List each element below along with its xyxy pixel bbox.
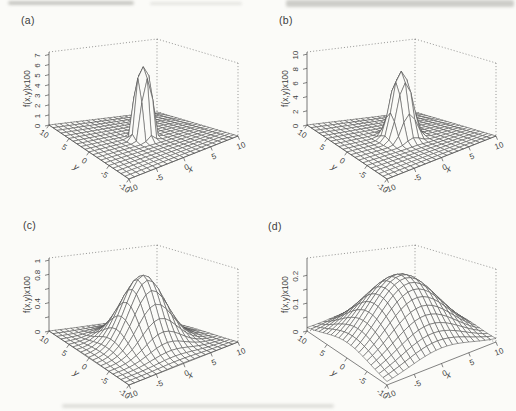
svg-text:10: 10	[38, 128, 51, 141]
svg-text:10: 10	[493, 140, 505, 152]
panel-d: 00.10.2f(x,y)x100-10-50510x1050-5-10y	[258, 206, 516, 411]
svg-text:-5: -5	[357, 375, 368, 387]
svg-text:6: 6	[291, 81, 300, 86]
svg-text:0: 0	[291, 329, 300, 334]
svg-text:-5: -5	[412, 172, 422, 183]
surface-plot-b: 0246810f(x,y)x100-10-50510x1050-5-10y	[258, 0, 516, 205]
svg-text:10: 10	[296, 128, 309, 141]
svg-text:0: 0	[338, 362, 347, 372]
svg-text:0.1: 0.1	[291, 298, 300, 310]
svg-text:0.4: 0.4	[33, 298, 42, 310]
svg-text:5: 5	[468, 151, 476, 161]
svg-text:0: 0	[338, 156, 347, 166]
svg-text:f(x,y)x100: f(x,y)x100	[22, 70, 32, 107]
svg-text:0.8: 0.8	[33, 269, 42, 281]
svg-text:y: y	[71, 161, 82, 173]
svg-text:0: 0	[80, 156, 89, 166]
svg-text:4: 4	[291, 95, 300, 100]
svg-text:-5: -5	[154, 172, 164, 183]
svg-text:y: y	[329, 161, 340, 173]
svg-text:0: 0	[33, 329, 42, 334]
svg-text:f(x,y)x100: f(x,y)x100	[280, 70, 290, 107]
surface-plot-c: 00.40.81f(x,y)x100-10-50510x1050-5-10y	[0, 206, 258, 411]
svg-text:f(x,y)x100: f(x,y)x100	[280, 276, 290, 313]
svg-text:0: 0	[291, 123, 300, 128]
svg-text:0: 0	[80, 362, 89, 372]
svg-text:-5: -5	[99, 375, 110, 387]
svg-text:y: y	[329, 367, 340, 379]
svg-text:7: 7	[33, 53, 42, 58]
svg-text:-5: -5	[412, 378, 422, 389]
svg-text:5: 5	[468, 357, 476, 367]
svg-text:-5: -5	[154, 378, 164, 389]
svg-text:5: 5	[60, 349, 69, 359]
surface-plot-a: 01234567f(x,y)x100-10-50510x1050-5-10y	[0, 0, 258, 205]
svg-text:2: 2	[33, 103, 42, 108]
svg-text:f(x,y)x100: f(x,y)x100	[22, 276, 32, 313]
svg-text:10: 10	[493, 346, 505, 358]
panel-c: 00.40.81f(x,y)x100-10-50510x1050-5-10y	[0, 206, 258, 411]
svg-text:2: 2	[291, 109, 300, 114]
scanned-figure-page: (a) (b) (c) (d) 01234567f(x,y)x100-10-50…	[0, 0, 516, 411]
svg-text:10: 10	[291, 50, 300, 59]
svg-text:0: 0	[33, 123, 42, 128]
svg-text:5: 5	[210, 357, 218, 367]
svg-text:5: 5	[33, 73, 42, 78]
svg-text:5: 5	[60, 143, 69, 153]
svg-text:0.2: 0.2	[291, 270, 300, 282]
svg-text:8: 8	[291, 67, 300, 72]
svg-text:10: 10	[38, 334, 51, 347]
svg-text:3: 3	[33, 93, 42, 98]
svg-text:10: 10	[235, 140, 247, 152]
svg-text:-5: -5	[99, 169, 110, 181]
panel-a: 01234567f(x,y)x100-10-50510x1050-5-10y	[0, 0, 258, 205]
svg-text:10: 10	[235, 346, 247, 358]
svg-text:6: 6	[33, 63, 42, 68]
svg-text:y: y	[71, 367, 82, 379]
svg-text:5: 5	[318, 349, 327, 359]
svg-text:10: 10	[296, 334, 309, 347]
svg-text:5: 5	[318, 143, 327, 153]
svg-text:1: 1	[33, 258, 42, 263]
svg-text:-5: -5	[357, 169, 368, 181]
surface-plot-d: 00.10.2f(x,y)x100-10-50510x1050-5-10y	[258, 206, 516, 411]
svg-text:1: 1	[33, 113, 42, 118]
panel-b: 0246810f(x,y)x100-10-50510x1050-5-10y	[258, 0, 516, 205]
svg-text:4: 4	[33, 83, 42, 88]
svg-text:5: 5	[210, 151, 218, 161]
